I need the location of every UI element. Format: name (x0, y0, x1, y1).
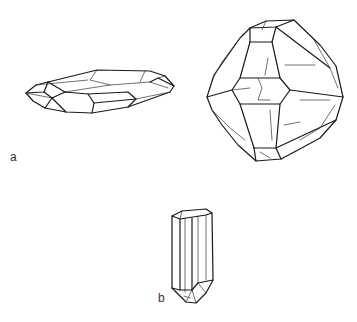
crystal-figure (0, 0, 357, 322)
panel-label-b: b (158, 292, 165, 304)
prismatic-crystal (172, 209, 213, 303)
bipyramidal-crystal (207, 20, 343, 161)
tabular-crystal (26, 70, 174, 113)
panel-label-a: a (10, 151, 17, 163)
